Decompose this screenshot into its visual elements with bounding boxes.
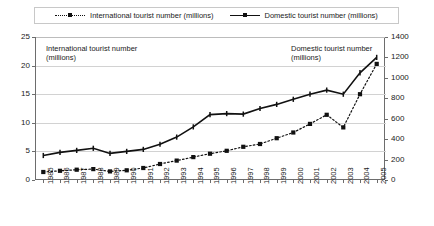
data-point [258, 142, 262, 146]
y-right-tick-1200: 1200 [391, 53, 425, 61]
y-right-tick-800: 800 [391, 94, 425, 102]
y-left-tickmark [32, 94, 35, 95]
data-point [175, 159, 179, 163]
y-right-tick-1400: 1400 [391, 33, 425, 41]
x-axis-label-1998: 1998 [263, 167, 271, 184]
x-tickmark [93, 180, 94, 183]
y-right-tickmark [385, 78, 388, 79]
x-tickmark [127, 180, 128, 183]
x-axis-label-1996: 1996 [230, 167, 238, 184]
data-point [291, 130, 295, 134]
data-point [41, 170, 45, 174]
x-axis-label-1991: 1991 [147, 167, 155, 184]
y-left-tick-15: 15 [4, 90, 30, 98]
y-right-tick-200: 200 [391, 156, 425, 164]
y-left-tickmark [32, 151, 35, 152]
x-axis-label-1999: 1999 [280, 167, 288, 184]
data-point [225, 149, 229, 153]
x-tickmark [377, 180, 378, 183]
data-point [91, 167, 95, 171]
x-tickmark [327, 180, 328, 183]
x-axis-label-1988: 1988 [97, 167, 105, 184]
x-axis-label-1987: 1987 [80, 167, 88, 184]
y-right-tick-600: 600 [391, 115, 425, 123]
y-right-tickmark [385, 160, 388, 161]
y-left-tickmark [32, 37, 35, 38]
legend-label-international: International tourist number (millions) [90, 12, 213, 20]
data-point [275, 136, 279, 140]
x-tickmark [210, 180, 211, 183]
x-axis-label-1990: 1990 [130, 167, 138, 184]
data-point [141, 166, 145, 170]
y-left-tickmark [32, 180, 35, 181]
data-point [358, 92, 362, 96]
x-tickmark [110, 180, 111, 183]
x-tickmark [177, 180, 178, 183]
data-point [375, 62, 379, 66]
x-tickmark [143, 180, 144, 183]
y-left-tickmark [32, 123, 35, 124]
y-right-tickmark [385, 98, 388, 99]
legend-item-domestic: Domestic tourist number (millions) [230, 11, 378, 20]
x-tickmark [310, 180, 311, 183]
x-axis-label-1992: 1992 [163, 167, 171, 184]
y-left-tick-0: 0 [4, 176, 30, 184]
chart-legend: International tourist number (millions) … [34, 7, 399, 24]
x-axis-label-1995: 1995 [213, 167, 221, 184]
y-right-tick-400: 400 [391, 135, 425, 143]
legend-item-international: International tourist number (millions) [55, 11, 213, 20]
x-axis-label-1986: 1986 [63, 167, 71, 184]
x-axis-label-1989: 1989 [113, 167, 121, 184]
x-axis-label-1993: 1993 [180, 167, 188, 184]
x-tickmark [193, 180, 194, 183]
x-tickmark [260, 180, 261, 183]
data-point [208, 152, 212, 156]
data-point [158, 162, 162, 166]
x-tickmark [343, 180, 344, 183]
x-axis-label-2000: 2000 [297, 167, 305, 184]
data-point [308, 122, 312, 126]
x-axis-label-2004: 2004 [363, 167, 371, 184]
x-axis-label-2003: 2003 [347, 167, 355, 184]
x-tickmark [160, 180, 161, 183]
y-right-tickmark [385, 57, 388, 58]
x-axis-label-1997: 1997 [247, 167, 255, 184]
x-axis-label-2002: 2002 [330, 167, 338, 184]
y-left-tick-25: 25 [4, 33, 30, 41]
x-tickmark [360, 180, 361, 183]
x-tickmark [227, 180, 228, 183]
x-tickmark [43, 180, 44, 183]
data-point [325, 113, 329, 117]
y-right-tick-0: 0 [391, 176, 425, 184]
legend-label-domestic: Domestic tourist number (millions) [265, 12, 378, 20]
x-axis-label-1994: 1994 [197, 167, 205, 184]
x-tickmark [243, 180, 244, 183]
data-point [241, 145, 245, 149]
y-right-tick-1000: 1000 [391, 74, 425, 82]
x-tickmark [293, 180, 294, 183]
series-line-domestic [43, 57, 376, 155]
data-point [341, 125, 345, 129]
y-right-tickmark [385, 119, 388, 120]
data-point [191, 155, 195, 159]
y-right-tickmark [385, 37, 388, 38]
series-markers-international [41, 62, 379, 174]
x-tickmark [60, 180, 61, 183]
y-left-tick-10: 10 [4, 119, 30, 127]
y-right-tickmark [385, 139, 388, 140]
y-left-tick-5: 5 [4, 147, 30, 155]
series-markers-domestic [43, 55, 376, 158]
series-layer [35, 37, 385, 180]
x-axis-label-2005: 2005 [380, 167, 388, 184]
x-tickmark [77, 180, 78, 183]
y-left-tick-20: 20 [4, 62, 30, 70]
tourist-number-chart: International tourist number (millions) … [0, 0, 434, 226]
dotted-line-key-icon [55, 11, 85, 20]
solid-line-key-icon [230, 11, 260, 20]
x-axis-label-2001: 2001 [313, 167, 321, 184]
x-axis-label-1985: 1985 [47, 167, 55, 184]
x-tickmark [277, 180, 278, 183]
y-left-tickmark [32, 66, 35, 67]
